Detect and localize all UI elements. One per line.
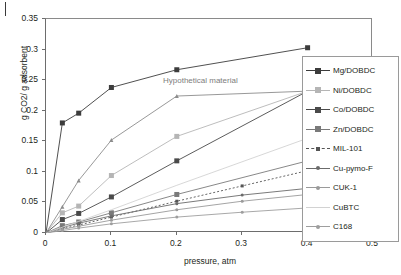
legend-symbol xyxy=(306,221,330,232)
legend-label: Mg/DOBDC xyxy=(330,66,375,75)
y-tick-mark xyxy=(42,49,45,50)
legend-item-cu-pymo-f[interactable]: Cu-pymo-F xyxy=(303,159,398,179)
y-tick-mark xyxy=(42,110,45,111)
legend-marker xyxy=(316,225,320,229)
legend-label: C168 xyxy=(330,222,352,231)
y-tick-label: 0 xyxy=(4,227,38,237)
y-tick-mark xyxy=(42,18,45,19)
x-tick-label: 0.1 xyxy=(95,238,125,248)
y-tick-label: 0.1 xyxy=(4,166,38,176)
legend-label: CUK-1 xyxy=(330,183,357,192)
x-tick-mark xyxy=(110,232,111,235)
legend-item-cubtc[interactable]: CuBTC xyxy=(303,198,398,218)
y-tick-mark xyxy=(42,140,45,141)
legend-item-ni-dobdc[interactable]: Ni/DOBDC xyxy=(303,81,398,101)
y-tick-mark xyxy=(42,171,45,172)
x-tick-mark xyxy=(45,232,46,235)
legend-item-zn-dobdc[interactable]: Zn/DOBDC xyxy=(303,120,398,140)
x-tick-label: 0 xyxy=(30,238,60,248)
x-tick-label: 0.2 xyxy=(161,238,191,248)
x-axis-title: pressure, atm xyxy=(150,256,270,266)
legend-marker xyxy=(316,186,320,190)
legend-item-cuk-1[interactable]: CUK-1 xyxy=(303,178,398,198)
y-tick-mark xyxy=(42,201,45,202)
legend-item-mil-101[interactable]: MIL-101 xyxy=(303,139,398,159)
legend-item-mg-dobdc[interactable]: Mg/DOBDC xyxy=(303,61,398,81)
legend-symbol xyxy=(306,202,330,213)
legend-symbol xyxy=(306,85,330,96)
legend-symbol xyxy=(306,124,330,135)
legend-label: Cu-pymo-F xyxy=(330,164,373,173)
legend-marker xyxy=(315,126,321,132)
legend-marker xyxy=(316,147,320,151)
legend-marker xyxy=(315,107,321,113)
legend-label: Co/DOBDC xyxy=(330,105,374,114)
chart-figure: 00.050.10.150.20.250.30.3500.10.20.30.40… xyxy=(0,0,401,275)
legend-symbol xyxy=(306,65,330,76)
legend-line xyxy=(306,207,330,209)
x-tick-mark xyxy=(241,232,242,235)
legend-symbol xyxy=(306,143,330,154)
legend-marker xyxy=(315,68,321,74)
legend-label: Zn/DOBDC xyxy=(330,125,373,134)
annotation-hypothetical-material: Hypothetical material xyxy=(163,76,238,85)
y-tick-label: 0.05 xyxy=(4,196,38,206)
y-tick-label: 0.35 xyxy=(4,13,38,23)
legend-item-c168[interactable]: C168 xyxy=(303,217,398,237)
legend-symbol xyxy=(306,182,330,193)
legend-label: Ni/DOBDC xyxy=(330,86,372,95)
chart-legend: Mg/DOBDCNi/DOBDCCo/DOBDCZn/DOBDCMIL-101C… xyxy=(302,56,399,242)
y-axis-title: g CO2/ g adsorbent xyxy=(19,23,29,143)
legend-item-co-dobdc[interactable]: Co/DOBDC xyxy=(303,100,398,120)
x-tick-label: 0.3 xyxy=(226,238,256,248)
legend-marker xyxy=(315,87,321,93)
legend-label: MIL-101 xyxy=(330,144,362,153)
x-tick-mark xyxy=(176,232,177,235)
legend-label: CuBTC xyxy=(330,203,359,212)
y-tick-mark xyxy=(42,79,45,80)
legend-symbol xyxy=(306,104,330,115)
legend-symbol xyxy=(306,163,330,174)
